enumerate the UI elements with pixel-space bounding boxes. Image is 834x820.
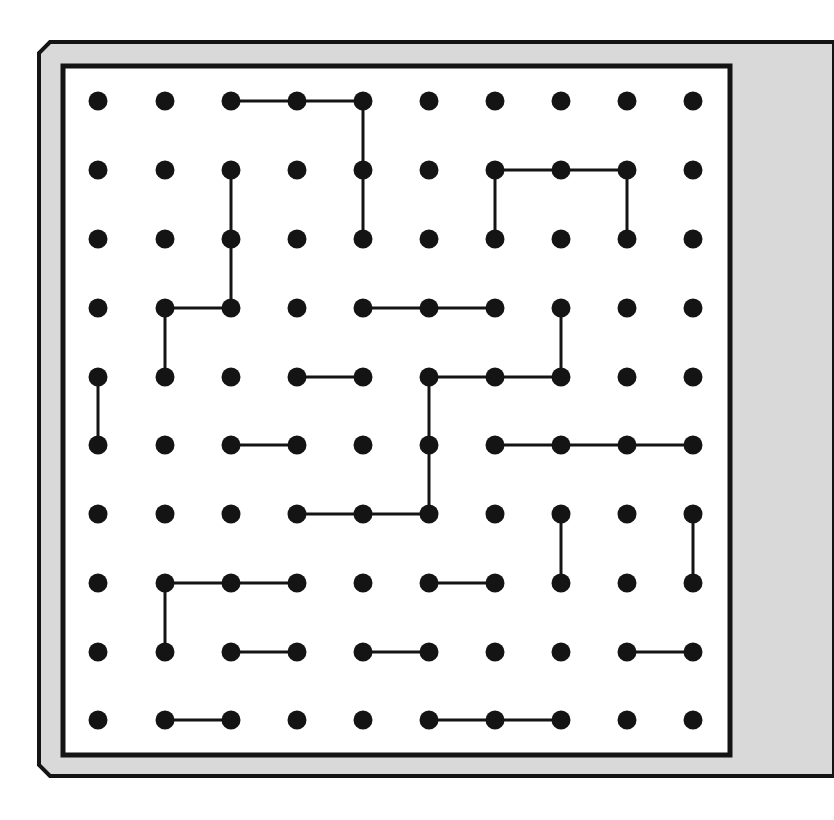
- grid-dot[interactable]: [89, 368, 108, 387]
- grid-dot[interactable]: [222, 92, 241, 111]
- grid-dot[interactable]: [89, 436, 108, 455]
- grid-dot[interactable]: [89, 230, 108, 249]
- grid-dot[interactable]: [354, 299, 373, 318]
- grid-dot[interactable]: [684, 92, 703, 111]
- grid-dot[interactable]: [354, 161, 373, 180]
- grid-dot[interactable]: [288, 505, 307, 524]
- grid-dot[interactable]: [354, 505, 373, 524]
- grid-dot[interactable]: [486, 92, 505, 111]
- grid-dot[interactable]: [618, 574, 637, 593]
- grid-dot[interactable]: [552, 436, 571, 455]
- grid-dot[interactable]: [222, 505, 241, 524]
- grid-dot[interactable]: [156, 711, 175, 730]
- grid-dot[interactable]: [222, 299, 241, 318]
- grid-dot[interactable]: [552, 368, 571, 387]
- grid-dot[interactable]: [684, 230, 703, 249]
- grid-dot[interactable]: [420, 230, 439, 249]
- grid-dot[interactable]: [156, 505, 175, 524]
- grid-dot[interactable]: [420, 643, 439, 662]
- grid-dot[interactable]: [222, 230, 241, 249]
- grid-dot[interactable]: [288, 574, 307, 593]
- grid-dot[interactable]: [354, 643, 373, 662]
- grid-dot[interactable]: [222, 574, 241, 593]
- grid-dot[interactable]: [552, 230, 571, 249]
- grid-dot[interactable]: [618, 368, 637, 387]
- grid-dot[interactable]: [354, 574, 373, 593]
- grid-dot[interactable]: [222, 643, 241, 662]
- grid-dot[interactable]: [89, 505, 108, 524]
- grid-dot[interactable]: [486, 368, 505, 387]
- grid-dot[interactable]: [552, 711, 571, 730]
- grid-dot[interactable]: [156, 436, 175, 455]
- grid-dot[interactable]: [156, 643, 175, 662]
- grid-dot[interactable]: [288, 711, 307, 730]
- grid-dot[interactable]: [222, 436, 241, 455]
- grid-dot[interactable]: [288, 161, 307, 180]
- grid-dot[interactable]: [552, 92, 571, 111]
- grid-dot[interactable]: [89, 574, 108, 593]
- grid-dot[interactable]: [288, 368, 307, 387]
- grid-dot[interactable]: [222, 161, 241, 180]
- grid-dot[interactable]: [156, 92, 175, 111]
- grid-dot[interactable]: [486, 505, 505, 524]
- grid-dot[interactable]: [618, 505, 637, 524]
- grid-dot[interactable]: [486, 161, 505, 180]
- grid-dot[interactable]: [420, 368, 439, 387]
- grid-dot[interactable]: [222, 368, 241, 387]
- grid-dot[interactable]: [684, 368, 703, 387]
- grid-dot[interactable]: [288, 92, 307, 111]
- grid-dot[interactable]: [156, 161, 175, 180]
- grid-dot[interactable]: [354, 436, 373, 455]
- grid-dot[interactable]: [420, 711, 439, 730]
- grid-dot[interactable]: [486, 230, 505, 249]
- grid-dot[interactable]: [618, 643, 637, 662]
- grid-dot[interactable]: [618, 161, 637, 180]
- grid-dot[interactable]: [354, 230, 373, 249]
- grid-dot[interactable]: [684, 711, 703, 730]
- grid-dot[interactable]: [420, 574, 439, 593]
- grid-dot[interactable]: [684, 574, 703, 593]
- grid-dot[interactable]: [288, 436, 307, 455]
- grid-dot[interactable]: [420, 436, 439, 455]
- grid-dot[interactable]: [684, 505, 703, 524]
- grid-dot[interactable]: [486, 574, 505, 593]
- grid-dot[interactable]: [618, 92, 637, 111]
- grid-dot[interactable]: [618, 711, 637, 730]
- grid-dot[interactable]: [552, 643, 571, 662]
- grid-dot[interactable]: [684, 436, 703, 455]
- grid-dot[interactable]: [89, 299, 108, 318]
- grid-dot[interactable]: [288, 230, 307, 249]
- grid-dot[interactable]: [156, 299, 175, 318]
- grid-dot[interactable]: [420, 92, 439, 111]
- grid-dot[interactable]: [618, 299, 637, 318]
- grid-dot[interactable]: [288, 299, 307, 318]
- grid-dot[interactable]: [420, 299, 439, 318]
- grid-dot[interactable]: [618, 436, 637, 455]
- grid-dot[interactable]: [552, 574, 571, 593]
- grid-dot[interactable]: [684, 161, 703, 180]
- grid-dot[interactable]: [156, 230, 175, 249]
- grid-dot[interactable]: [552, 299, 571, 318]
- grid-dot[interactable]: [222, 711, 241, 730]
- grid-dot[interactable]: [354, 92, 373, 111]
- grid-dot[interactable]: [684, 643, 703, 662]
- grid-dot[interactable]: [552, 505, 571, 524]
- grid-dot[interactable]: [89, 643, 108, 662]
- grid-dot[interactable]: [156, 574, 175, 593]
- grid-dot[interactable]: [552, 161, 571, 180]
- grid-dot[interactable]: [89, 161, 108, 180]
- grid-dot[interactable]: [354, 711, 373, 730]
- grid-dot[interactable]: [486, 711, 505, 730]
- grid-dot[interactable]: [354, 368, 373, 387]
- grid-dot[interactable]: [684, 299, 703, 318]
- grid-dot[interactable]: [288, 643, 307, 662]
- grid-dot[interactable]: [89, 92, 108, 111]
- grid-dot[interactable]: [156, 368, 175, 387]
- grid-dot[interactable]: [486, 643, 505, 662]
- grid-dot[interactable]: [420, 161, 439, 180]
- grid-dot[interactable]: [618, 230, 637, 249]
- dot-grid-board[interactable]: [0, 0, 834, 820]
- grid-dot[interactable]: [420, 505, 439, 524]
- grid-dot[interactable]: [486, 436, 505, 455]
- grid-dot[interactable]: [89, 711, 108, 730]
